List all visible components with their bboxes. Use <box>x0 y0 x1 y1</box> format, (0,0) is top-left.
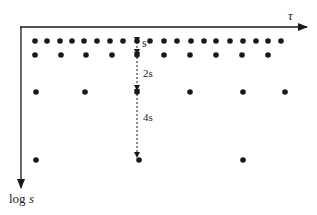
sample-point <box>213 38 219 44</box>
sample-point <box>57 38 63 44</box>
sample-point <box>253 38 259 44</box>
sample-point <box>32 38 38 44</box>
sample-point <box>278 38 284 44</box>
sample-point <box>58 52 64 58</box>
sample-point <box>82 89 88 95</box>
sample-point <box>213 52 219 58</box>
sample-point <box>240 38 246 44</box>
sample-point <box>161 52 167 58</box>
sample-point <box>161 38 167 44</box>
spacing-label-4s: 4s <box>143 112 153 123</box>
spacing-label-2s: 2s <box>143 68 153 79</box>
sample-point <box>134 52 140 58</box>
sample-point <box>107 38 113 44</box>
sample-point <box>81 38 87 44</box>
sample-point <box>33 157 39 163</box>
sample-point <box>109 52 115 58</box>
log-text: log <box>9 191 29 206</box>
spacing-label-s: s <box>142 37 147 49</box>
sample-point <box>265 38 271 44</box>
sample-point <box>282 89 288 95</box>
sample-point <box>136 157 142 163</box>
sample-point <box>120 38 126 44</box>
sample-point <box>134 89 140 95</box>
sample-point <box>187 52 193 58</box>
sample-point <box>227 38 233 44</box>
sample-point <box>174 38 180 44</box>
point-row-s <box>32 38 284 44</box>
point-row-4s <box>33 89 288 95</box>
tau-axis-label: τ <box>288 9 293 22</box>
diagram-canvas <box>0 0 317 215</box>
point-row-2s <box>32 52 271 58</box>
sample-point <box>239 52 245 58</box>
sample-point <box>188 38 194 44</box>
sample-point <box>83 52 89 58</box>
log-s-axis-label: log s <box>9 192 34 205</box>
sample-point <box>69 38 75 44</box>
s-variable: s <box>29 191 34 206</box>
sample-point <box>32 52 38 58</box>
sample-point <box>147 38 153 44</box>
sample-point <box>240 89 246 95</box>
sample-point <box>44 38 50 44</box>
sample-point <box>187 89 193 95</box>
sample-point <box>94 38 100 44</box>
sample-points <box>32 38 288 163</box>
sample-point <box>33 89 39 95</box>
sample-point <box>201 38 207 44</box>
sample-point <box>240 157 246 163</box>
point-row-8s <box>33 157 246 163</box>
sample-point <box>265 52 271 58</box>
